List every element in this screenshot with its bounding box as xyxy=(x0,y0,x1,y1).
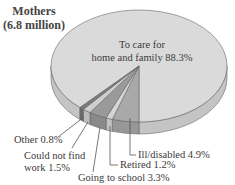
label-home-line1: To care for xyxy=(119,39,165,50)
leader-work xyxy=(72,122,88,148)
label-retired: Retired 1.2% xyxy=(120,159,176,170)
label-home-line2: home and family 88.3% xyxy=(92,52,193,63)
label-other: Other 0.8% xyxy=(14,134,63,145)
label-work-line1: Could not find xyxy=(24,150,86,161)
slice-side-retired xyxy=(106,118,112,131)
label-work-line2: work 1.5% xyxy=(24,162,70,173)
leader-school xyxy=(93,127,100,172)
pie-tops xyxy=(51,10,227,122)
pie-chart: To care for home and family 88.3% Ill/di… xyxy=(0,0,235,185)
label-school: Going to school 3.3% xyxy=(78,172,170,183)
